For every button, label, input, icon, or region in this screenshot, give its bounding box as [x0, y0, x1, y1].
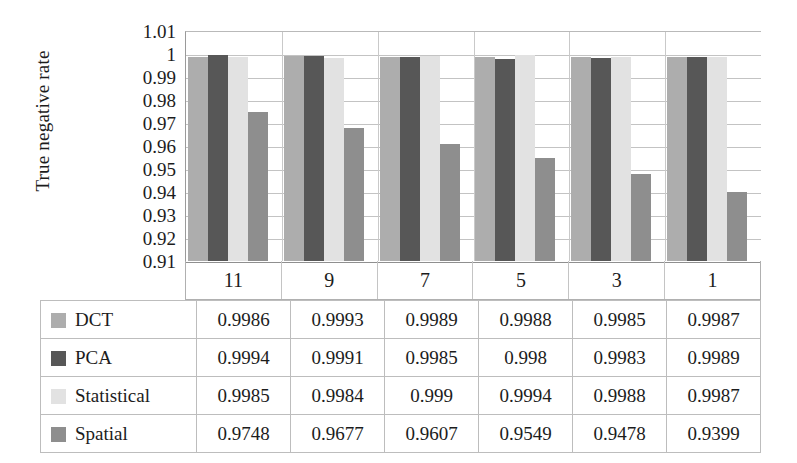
table-cell-value: 0.9985 — [573, 301, 667, 339]
bar-group — [186, 32, 282, 261]
bar — [400, 57, 420, 261]
legend-swatch-icon — [51, 313, 66, 328]
bar — [687, 57, 707, 261]
bar — [324, 58, 344, 261]
table-cell-value: 0.9988 — [479, 301, 573, 339]
bar — [515, 55, 535, 261]
series-name: PCA — [75, 347, 112, 369]
table-cell-value: 0.9988 — [573, 377, 667, 415]
y-axis-tick-label: 0.93 — [143, 206, 176, 225]
bar-groups — [186, 32, 761, 261]
y-axis-tick-label: 0.95 — [143, 160, 176, 179]
table-cell-value: 0.9478 — [573, 415, 667, 453]
bar — [707, 57, 727, 261]
table-cell-value: 0.9983 — [573, 339, 667, 377]
plot-area — [185, 31, 761, 261]
bar — [591, 58, 611, 261]
bar — [440, 144, 460, 261]
bar — [380, 57, 400, 261]
data-table: DCT0.99860.99930.99890.99880.99850.9987P… — [40, 300, 761, 453]
table-cell-value: 0.9399 — [667, 415, 761, 453]
legend-swatch-icon — [51, 351, 66, 366]
bar — [631, 174, 651, 261]
category-label: 7 — [378, 261, 474, 299]
y-axis-tick-label: 0.98 — [143, 91, 176, 110]
y-axis-tick-labels: 1.0110.990.980.970.960.950.940.930.920.9… — [118, 31, 180, 261]
category-label: 5 — [473, 261, 569, 299]
table-cell-value: 0.9986 — [197, 301, 291, 339]
legend-swatch-icon — [51, 389, 66, 404]
table-row: Statistical0.99850.99840.9990.99940.9988… — [41, 377, 761, 415]
table-cell-value: 0.9994 — [197, 339, 291, 377]
bar — [284, 56, 304, 261]
y-axis-tick-label: 0.94 — [143, 183, 176, 202]
bar — [304, 56, 324, 261]
table-cell-value: 0.9984 — [291, 377, 385, 415]
category-label: 1 — [665, 261, 760, 299]
table-cell-value: 0.9549 — [479, 415, 573, 453]
series-name: Statistical — [75, 385, 150, 407]
table-cell-value: 0.9987 — [667, 377, 761, 415]
y-axis-tick-label: 0.92 — [143, 229, 176, 248]
y-axis-tick-label: 1 — [167, 45, 177, 64]
table-cell-value: 0.999 — [385, 377, 479, 415]
table-cell-value: 0.9987 — [667, 301, 761, 339]
table-cell-value: 0.9989 — [667, 339, 761, 377]
table-cell-value: 0.9994 — [479, 377, 573, 415]
table-cell-value: 0.9985 — [197, 377, 291, 415]
bar-group — [665, 32, 761, 261]
table-cell-value: 0.9991 — [291, 339, 385, 377]
legend-cell: Spatial — [41, 415, 197, 453]
bar — [495, 59, 515, 261]
bar — [667, 57, 687, 261]
category-label: 9 — [282, 261, 378, 299]
table-row: Spatial0.97480.96770.96070.95490.94780.9… — [41, 415, 761, 453]
bar — [535, 158, 555, 261]
legend-swatch-icon — [51, 427, 66, 442]
chart-figure: True negative rate 1.0110.990.980.970.96… — [0, 0, 797, 463]
data-table-body: DCT0.99860.99930.99890.99880.99850.9987P… — [41, 301, 761, 453]
category-label: 11 — [186, 261, 282, 299]
legend-cell: PCA — [41, 339, 197, 377]
table-cell-value: 0.9748 — [197, 415, 291, 453]
table-cell-value: 0.9677 — [291, 415, 385, 453]
y-axis-tick-label: 0.91 — [143, 252, 176, 271]
table-row: DCT0.99860.99930.99890.99880.99850.9987 — [41, 301, 761, 339]
bar — [571, 57, 591, 261]
legend-cell: Statistical — [41, 377, 197, 415]
bar — [208, 55, 228, 261]
bar-group — [569, 32, 665, 261]
bar-group — [473, 32, 569, 261]
bar — [475, 57, 495, 261]
bar — [420, 56, 440, 261]
y-axis-title: True negative rate — [32, 6, 54, 236]
category-label: 3 — [569, 261, 665, 299]
y-axis-tick-label: 0.97 — [143, 114, 176, 133]
y-axis-tick-label: 0.96 — [143, 137, 176, 156]
table-cell-value: 0.9607 — [385, 415, 479, 453]
bar-group — [378, 32, 474, 261]
table-cell-value: 0.998 — [479, 339, 573, 377]
table-cell-value: 0.9989 — [385, 301, 479, 339]
series-name: Spatial — [75, 423, 128, 445]
bar — [188, 57, 208, 261]
legend-cell: DCT — [41, 301, 197, 339]
bar — [248, 112, 268, 261]
bar — [344, 128, 364, 261]
bar — [727, 192, 747, 261]
y-axis-tick-label: 0.99 — [143, 68, 176, 87]
bar — [228, 57, 248, 261]
category-axis-row: 1197531 — [185, 261, 761, 300]
series-name: DCT — [75, 309, 113, 331]
table-row: PCA0.99940.99910.99850.9980.99830.9989 — [41, 339, 761, 377]
table-cell-value: 0.9993 — [291, 301, 385, 339]
bar — [611, 57, 631, 261]
bar-group — [282, 32, 378, 261]
y-axis-tick-label: 1.01 — [143, 22, 176, 41]
table-cell-value: 0.9985 — [385, 339, 479, 377]
